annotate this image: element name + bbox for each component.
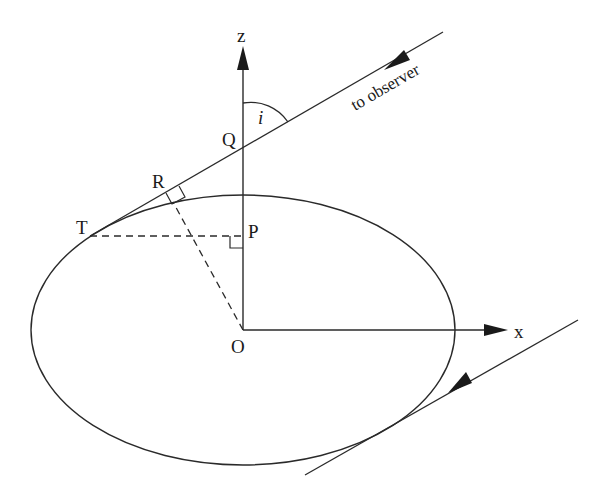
label-T: T bbox=[76, 217, 88, 238]
label-to-observer: to observer bbox=[348, 60, 424, 115]
label-O: O bbox=[231, 336, 245, 357]
dashed-line-OR bbox=[173, 202, 243, 330]
x-axis-arrow-icon bbox=[484, 324, 508, 336]
z-axis-arrow-icon bbox=[237, 46, 249, 70]
ellipse-diagram: z x Q P O R T i to observer bbox=[0, 0, 600, 497]
label-angle-i: i bbox=[258, 107, 263, 128]
label-x: x bbox=[514, 321, 524, 342]
observer-line-upper bbox=[90, 32, 443, 236]
label-Q: Q bbox=[222, 129, 236, 150]
observer-arrow-lower-icon bbox=[448, 372, 472, 393]
angle-i-arc bbox=[243, 102, 288, 122]
observer-line-lower bbox=[305, 320, 578, 475]
right-angle-marker-P bbox=[230, 236, 243, 248]
label-P: P bbox=[248, 221, 259, 242]
label-z: z bbox=[237, 25, 245, 46]
label-R: R bbox=[152, 171, 165, 192]
